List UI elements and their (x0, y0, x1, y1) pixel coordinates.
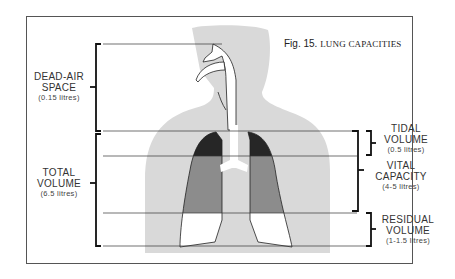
label-value: (0.5 litres) (376, 145, 436, 155)
label-value: (6.5 litres) (30, 189, 88, 199)
label-line: CAPACITY (366, 171, 436, 182)
label-value: (1-1.5 litres) (376, 236, 440, 246)
figure-title: Fig. 15. LUNG CAPACITIES (284, 38, 402, 49)
label-dead-air: DEAD-AIR SPACE (0.15 litres) (30, 71, 88, 103)
label-line: SPACE (30, 82, 88, 93)
label-tidal-volume: TIDAL VOLUME (0.5 litres) (376, 123, 436, 155)
label-line: VITAL (366, 160, 436, 171)
label-line: VOLUME (376, 225, 440, 236)
label-line: VOLUME (376, 134, 436, 145)
figure-name: LUNG CAPACITIES (320, 39, 401, 49)
label-line: RESIDUAL (376, 214, 440, 225)
figure-number: Fig. 15. (284, 38, 317, 49)
label-line: TOTAL (30, 167, 88, 178)
left-brackets (90, 44, 101, 246)
label-line: VOLUME (30, 178, 88, 189)
label-value: (4-5 litres) (366, 182, 436, 192)
label-value: (0.15 litres) (30, 93, 88, 103)
label-total-volume: TOTAL VOLUME (6.5 litres) (30, 167, 88, 199)
label-residual-volume: RESIDUAL VOLUME (1-1.5 litres) (376, 214, 440, 246)
label-line: TIDAL (376, 123, 436, 134)
label-line: DEAD-AIR (30, 71, 88, 82)
label-vital-capacity: VITAL CAPACITY (4-5 litres) (366, 160, 436, 192)
